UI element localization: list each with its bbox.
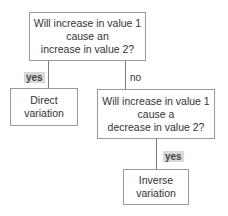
edge-label-yes-direct: yes (24, 72, 45, 83)
decision-1-line-3: increase in value 2? (41, 43, 134, 56)
edge-label-yes-inverse: yes (163, 151, 184, 162)
connector-q1-q2 (125, 60, 126, 89)
connector-q2-inverse (156, 139, 157, 169)
decision-box-increase: Will increase in value 1 cause an increa… (29, 12, 146, 61)
direct-line-1: Direct (30, 94, 57, 107)
decision-2-line-3: decrease in value 2? (108, 121, 205, 134)
direct-line-2: variation (24, 107, 64, 120)
decision-1-line-2: cause an (66, 30, 109, 43)
connector-q1-direct (48, 60, 49, 88)
edge-label-no: no (128, 72, 143, 83)
decision-1-line-1: Will increase in value 1 (34, 17, 141, 30)
decision-2-line-2: cause a (138, 108, 175, 121)
inverse-line-2: variation (136, 187, 176, 200)
inverse-line-1: Inverse (139, 174, 173, 187)
decision-box-decrease: Will increase in value 1 cause a decreas… (97, 89, 215, 139)
decision-2-line-1: Will increase in value 1 (102, 95, 209, 108)
result-box-direct-variation: Direct variation (10, 88, 78, 126)
result-box-inverse-variation: Inverse variation (123, 169, 189, 205)
